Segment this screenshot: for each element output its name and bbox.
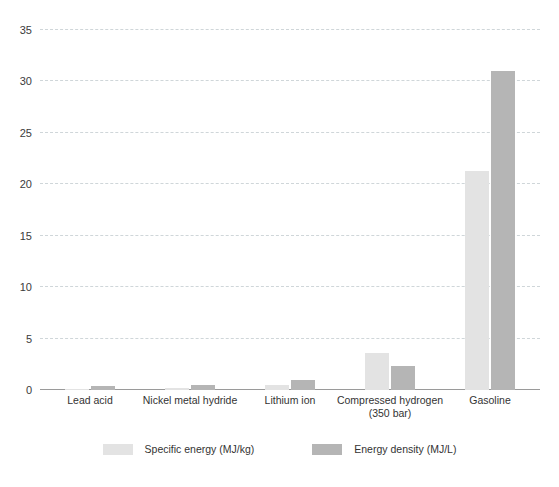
bar	[191, 385, 215, 390]
x-tick-label: Lithium ion	[265, 394, 316, 407]
bar-group	[465, 30, 515, 390]
y-tick-label: 0	[4, 385, 32, 396]
x-tick-label-line1: Compressed hydrogen	[337, 394, 443, 406]
bar	[391, 366, 415, 390]
y-tick-label: 30	[4, 76, 32, 87]
bar-group	[365, 30, 415, 390]
bar	[165, 388, 189, 390]
y-axis: 05101520253035	[0, 30, 32, 390]
bar	[65, 389, 89, 390]
x-tick-label-line1: Gasoline	[469, 394, 510, 406]
bar-chart: 05101520253035 Lead acidNickel metal hyd…	[0, 0, 559, 487]
y-tick-label: 10	[4, 282, 32, 293]
bar	[291, 380, 315, 390]
x-tick-label: Gasoline	[469, 394, 510, 407]
y-tick-label: 5	[4, 333, 32, 344]
bar-group	[165, 30, 215, 390]
legend-item[interactable]: Specific energy (MJ/kg)	[103, 443, 255, 455]
x-tick-label-line1: Nickel metal hydride	[143, 394, 238, 406]
y-tick-label: 15	[4, 230, 32, 241]
x-tick-label: Compressed hydrogen(350 bar)	[337, 394, 443, 420]
bar	[491, 71, 515, 390]
legend-label: Energy density (MJ/L)	[354, 443, 456, 455]
legend-swatch	[312, 444, 342, 455]
bar-group	[65, 30, 115, 390]
bar	[465, 171, 489, 390]
y-tick-label: 20	[4, 179, 32, 190]
x-tick-label: Nickel metal hydride	[143, 394, 238, 407]
x-tick-label-line1: Lead acid	[67, 394, 113, 406]
legend-swatch	[103, 444, 133, 455]
x-axis-labels: Lead acidNickel metal hydrideLithium ion…	[40, 394, 540, 434]
plot-area	[40, 30, 540, 390]
y-tick-label: 35	[4, 25, 32, 36]
legend-item[interactable]: Energy density (MJ/L)	[312, 443, 456, 455]
chart-legend: Specific energy (MJ/kg)Energy density (M…	[0, 443, 559, 455]
y-tick-label: 25	[4, 127, 32, 138]
legend-label: Specific energy (MJ/kg)	[145, 443, 255, 455]
bar-group	[265, 30, 315, 390]
bar	[265, 385, 289, 390]
x-tick-label-line2: (350 bar)	[337, 407, 443, 420]
bar	[365, 353, 389, 390]
x-tick-label: Lead acid	[67, 394, 113, 407]
x-tick-label-line1: Lithium ion	[265, 394, 316, 406]
bar	[91, 386, 115, 390]
bars-layer	[40, 30, 540, 390]
